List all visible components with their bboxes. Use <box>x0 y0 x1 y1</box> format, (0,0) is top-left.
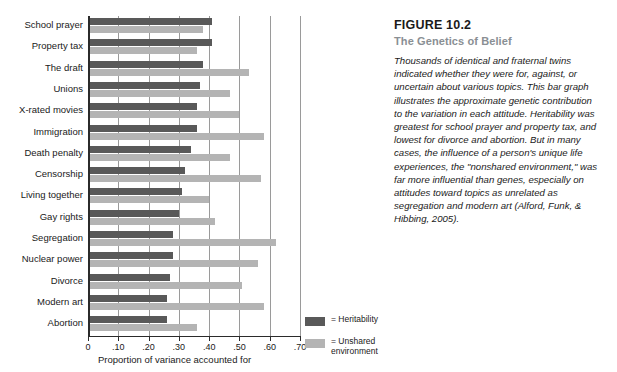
category-label: Abortion <box>48 317 83 328</box>
x-tick-label: .60 <box>257 342 283 352</box>
category-label: Modern art <box>37 296 83 307</box>
x-tick <box>88 337 89 341</box>
bar-unshared-environment <box>88 175 261 182</box>
bar-unshared-environment <box>88 133 264 140</box>
bar-unshared-environment <box>88 260 258 267</box>
legend-label: = Heritability <box>331 314 378 324</box>
chart-legend: = Heritability= Unshared environment <box>305 316 425 360</box>
category-label: Divorce <box>51 275 83 286</box>
bar-heritability <box>88 188 182 195</box>
x-tick <box>270 337 271 341</box>
bar-heritability <box>88 231 173 238</box>
y-axis <box>88 16 90 336</box>
x-tick-label: .40 <box>196 342 222 352</box>
category-label: Living together <box>21 189 83 200</box>
x-tick-label: .50 <box>226 342 252 352</box>
bar-unshared-environment <box>88 47 197 54</box>
figure-page: School prayerProperty taxThe draftUnions… <box>0 0 617 372</box>
category-label: Nuclear power <box>22 253 83 264</box>
category-label: Segregation <box>32 232 83 243</box>
category-label: Death penalty <box>24 147 83 158</box>
x-tick <box>118 337 119 341</box>
bar-unshared-environment <box>88 196 209 203</box>
bar-heritability <box>88 61 203 68</box>
x-tick <box>149 337 150 341</box>
bar-heritability <box>88 146 191 153</box>
x-axis-title: Proportion of variance accounted for <box>98 354 251 365</box>
bar-heritability <box>88 82 200 89</box>
x-tick-label: .10 <box>105 342 131 352</box>
legend-swatch <box>305 317 325 326</box>
x-tick <box>179 337 180 341</box>
bar-heritability <box>88 103 197 110</box>
bar-unshared-environment <box>88 90 230 97</box>
x-tick-label: 0 <box>75 342 101 352</box>
bar-unshared-environment <box>88 69 249 76</box>
bar-heritability <box>88 252 173 259</box>
bar-chart: School prayerProperty taxThe draftUnions… <box>0 0 330 372</box>
bar-heritability <box>88 167 185 174</box>
category-label: Censorship <box>35 168 83 179</box>
category-label: Unions <box>53 83 83 94</box>
x-tick-label: .20 <box>136 342 162 352</box>
bar-heritability <box>88 125 197 132</box>
bar-unshared-environment <box>88 111 239 118</box>
bar-unshared-environment <box>88 26 203 33</box>
x-tick-label: .30 <box>166 342 192 352</box>
bar-heritability <box>88 316 167 323</box>
bar-unshared-environment <box>88 154 230 161</box>
legend-item: = Unshared environment <box>305 338 425 356</box>
figure-caption: FIGURE 10.2 The Genetics of Belief Thous… <box>394 18 599 226</box>
category-label: Immigration <box>33 126 83 137</box>
category-label: Property tax <box>32 40 83 51</box>
category-label: Gay rights <box>40 211 83 222</box>
bar-unshared-environment <box>88 218 215 225</box>
bar-heritability <box>88 210 179 217</box>
figure-body-text: Thousands of identical and fraternal twi… <box>394 54 599 226</box>
legend-label: = Unshared environment <box>331 336 378 356</box>
bar-unshared-environment <box>88 282 242 289</box>
x-tick <box>300 337 301 341</box>
bar-heritability <box>88 274 170 281</box>
legend-swatch <box>305 339 325 348</box>
category-label: School prayer <box>24 19 83 30</box>
gridline <box>300 16 301 336</box>
figure-number: FIGURE 10.2 <box>394 18 599 32</box>
bar-heritability <box>88 18 212 25</box>
bar-unshared-environment <box>88 239 276 246</box>
x-tick <box>209 337 210 341</box>
bar-heritability <box>88 295 167 302</box>
x-tick <box>239 337 240 341</box>
bar-heritability <box>88 39 212 46</box>
bar-unshared-environment <box>88 303 264 310</box>
category-label: X-rated movies <box>19 104 83 115</box>
legend-item: = Heritability <box>305 316 425 334</box>
category-label: The draft <box>45 62 83 73</box>
bar-unshared-environment <box>88 324 197 331</box>
gridline <box>270 16 271 336</box>
figure-title: The Genetics of Belief <box>394 35 599 47</box>
